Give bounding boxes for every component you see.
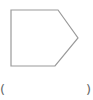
caption-open-paren: ( <box>0 82 5 98</box>
pentagon-outline <box>11 10 78 66</box>
pentagon-shape <box>0 0 93 100</box>
caption-close-paren: ) <box>86 82 91 98</box>
